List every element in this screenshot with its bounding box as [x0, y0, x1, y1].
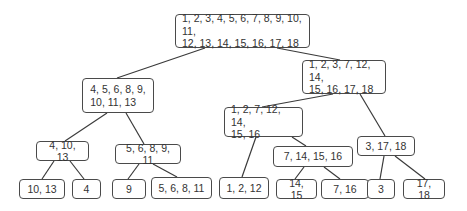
leaf-7-16: 7, 16: [321, 179, 369, 199]
node-rlr: 7, 14, 15, 16: [273, 146, 353, 167]
leaf-1-2-12: 1, 2, 12: [219, 177, 269, 199]
edge-root-l: [117, 48, 205, 78]
leaf-10-13: 10, 13: [19, 179, 65, 199]
edge-ll-lll: [42, 161, 54, 179]
edge-rlr-rlrr: [324, 167, 340, 179]
node-rr: 3, 17, 18: [357, 136, 415, 156]
edge-r-rr: [360, 94, 385, 136]
leaf-5-6-8-11: 5, 6, 8, 11: [151, 177, 212, 199]
node-rl: 1, 2, 7, 12, 14, 15, 16: [224, 107, 303, 137]
leaf-3: 3: [367, 179, 395, 199]
leaf-14-15: 14, 15: [276, 179, 317, 199]
leaf-4: 4: [72, 179, 101, 199]
node-ll: 4, 10, 13: [36, 141, 89, 161]
node-l: 4, 5, 6, 8, 9, 10, 11, 13: [82, 78, 154, 113]
leaf-17-18: 17, 18: [403, 179, 445, 199]
edge-l-lr: [126, 113, 144, 144]
edge-rl-rll: [242, 137, 256, 177]
node-lr: 5, 6, 8, 9, 11: [115, 144, 181, 164]
leaf-9: 9: [112, 179, 146, 199]
edge-l-ll: [65, 113, 107, 141]
node-r: 1, 2, 3, 7, 12, 14, 15, 16, 17, 18: [302, 60, 386, 94]
edge-rr-rrl: [380, 156, 384, 179]
node-root: 1, 2, 3, 4, 5, 6, 7, 8, 9, 10, 11, 12, 1…: [175, 14, 310, 48]
edge-ll-llr: [70, 161, 84, 179]
